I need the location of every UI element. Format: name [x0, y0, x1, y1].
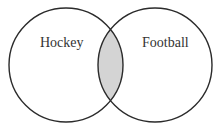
hockey-label: Hockey [40, 35, 84, 50]
venn-diagram: Hockey Football [0, 0, 219, 130]
football-label: Football [142, 35, 189, 50]
